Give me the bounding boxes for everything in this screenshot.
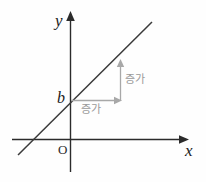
x-axis-label: x bbox=[185, 142, 193, 159]
origin-label: O bbox=[58, 143, 67, 156]
y-axis-arrowhead bbox=[66, 11, 75, 21]
vertical-increase-arrowhead bbox=[117, 59, 124, 67]
y-axis-label: y bbox=[55, 12, 63, 29]
coordinate-plane-svg bbox=[0, 0, 206, 182]
x-axis bbox=[12, 135, 189, 144]
y-intercept-label: b bbox=[57, 90, 65, 106]
vertical-increase-label: 증가 bbox=[125, 74, 145, 85]
horizontal-increase-label: 증가 bbox=[81, 104, 101, 115]
graph-figure: y x O b 증가 증가 bbox=[0, 0, 206, 182]
y-axis bbox=[66, 11, 75, 172]
function-line bbox=[18, 22, 152, 155]
vertical-increase-arrow bbox=[117, 59, 124, 101]
